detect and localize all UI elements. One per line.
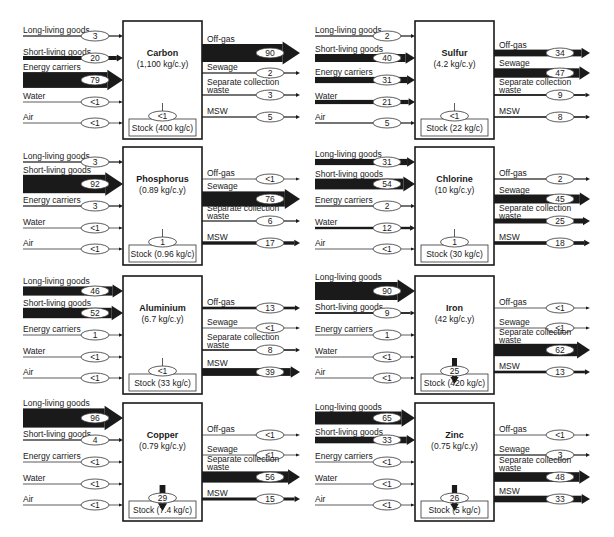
panel-iron: Iron(42 kg/c.y)Stock (420 kg/c)25Long-li… bbox=[315, 272, 590, 394]
output-value: 25 bbox=[555, 216, 565, 226]
input-label: Short-living goods bbox=[315, 44, 383, 54]
output-label-line2: waste bbox=[206, 211, 229, 221]
input-value: 3 bbox=[93, 201, 98, 211]
output-label: Sewage bbox=[499, 317, 530, 327]
output-value: 33 bbox=[555, 494, 565, 504]
input-value: 1 bbox=[93, 330, 98, 340]
output-value: <1 bbox=[555, 303, 565, 313]
input-value: 1 bbox=[385, 330, 390, 340]
panel-phosphorus: Phosphorus(0.89 kg/c.y)Stock (0.96 kg/c)… bbox=[23, 147, 300, 265]
input-value: 3 bbox=[93, 157, 98, 167]
input-label: Energy carriers bbox=[315, 324, 373, 334]
input-label: Water bbox=[315, 473, 338, 483]
output-value: 39 bbox=[265, 367, 275, 377]
output-label: Separate collectionwaste bbox=[498, 327, 572, 345]
input-value: <1 bbox=[90, 500, 100, 510]
element-name: Carbon bbox=[147, 48, 179, 58]
output-label-line2: waste bbox=[206, 340, 229, 350]
input-label: Air bbox=[23, 112, 34, 122]
output-label-line2: waste bbox=[206, 85, 229, 95]
element-throughput: (0.79 kg/c.y) bbox=[139, 441, 186, 451]
stock-flow-value: <1 bbox=[158, 111, 168, 121]
element-throughput: (4.2 kg/c.y) bbox=[433, 59, 475, 69]
output-label: MSW bbox=[499, 486, 520, 496]
output-label: Off-gas bbox=[207, 424, 235, 434]
input-label: Long-living goods bbox=[315, 149, 382, 159]
input-value: <1 bbox=[382, 373, 392, 383]
stock-label: Stock (33 kg/c) bbox=[134, 378, 191, 388]
input-value: <1 bbox=[382, 352, 392, 362]
input-value: <1 bbox=[90, 373, 100, 383]
substance-flow-diagram: Carbon(1,100 kg/c.y)Stock (400 kg/c)<1Lo… bbox=[0, 0, 614, 537]
input-value: 90 bbox=[382, 286, 392, 296]
output-label: Off-gas bbox=[207, 297, 235, 307]
output-label-line2: waste bbox=[206, 462, 229, 472]
input-label: Long-living goods bbox=[315, 272, 382, 282]
input-value: 31 bbox=[382, 157, 392, 167]
output-arrow-head bbox=[294, 240, 300, 246]
element-name: Iron bbox=[446, 303, 463, 313]
input-arrow-head bbox=[407, 157, 415, 167]
panel-carbon: Carbon(1,100 kg/c.y)Stock (400 kg/c)<1Lo… bbox=[23, 21, 300, 139]
input-value: <1 bbox=[90, 118, 100, 128]
output-arrow-head bbox=[291, 366, 300, 377]
input-label: Air bbox=[315, 112, 326, 122]
panel-copper: Copper(0.79 kg/c.y)Stock (7.4 kg/c)29Lon… bbox=[23, 398, 300, 521]
input-label: Air bbox=[315, 367, 326, 377]
input-value: <1 bbox=[382, 244, 392, 254]
input-label: Short-living goods bbox=[315, 169, 383, 179]
input-value: <1 bbox=[382, 479, 392, 489]
input-arrow-head bbox=[113, 284, 123, 297]
output-arrow-head bbox=[296, 348, 300, 352]
input-arrow-head bbox=[409, 98, 415, 105]
input-label: Air bbox=[315, 494, 326, 504]
output-value: 56 bbox=[265, 472, 275, 482]
element-name: Sulfur bbox=[442, 48, 468, 58]
input-arrow-head bbox=[112, 306, 123, 320]
input-arrow-head bbox=[402, 409, 415, 426]
input-arrow-head bbox=[403, 177, 415, 192]
element-throughput: (10 kg/c.y) bbox=[435, 185, 475, 195]
input-value: <1 bbox=[90, 457, 100, 467]
input-label: Air bbox=[23, 494, 34, 504]
output-label: Sewage bbox=[207, 317, 238, 327]
input-value: <1 bbox=[90, 244, 100, 254]
output-value: 8 bbox=[268, 345, 273, 355]
element-throughput: (0.75 kg/c.y) bbox=[431, 441, 478, 451]
stock-flow-value: 1 bbox=[452, 237, 457, 247]
input-label: Energy carriers bbox=[23, 62, 81, 72]
output-arrow-head bbox=[579, 66, 590, 79]
output-arrow-head bbox=[586, 433, 590, 436]
output-label-line2: waste bbox=[498, 463, 521, 473]
output-arrow-head bbox=[579, 470, 590, 484]
panel-zinc: Zinc(0.75 kg/c.y)Stock (5 kg/c)26Long-li… bbox=[315, 402, 590, 522]
input-value: 5 bbox=[385, 118, 390, 128]
input-value: 52 bbox=[90, 308, 100, 318]
input-label: Energy carriers bbox=[23, 195, 81, 205]
element-name: Copper bbox=[147, 430, 179, 440]
stock-flow-value: <1 bbox=[450, 111, 460, 121]
input-value: 4 bbox=[93, 435, 98, 445]
input-value: 33 bbox=[382, 435, 392, 445]
input-arrow-head bbox=[407, 435, 415, 445]
output-label: Off-gas bbox=[207, 34, 235, 44]
output-label: Off-gas bbox=[207, 168, 235, 178]
output-label-line2: waste bbox=[498, 85, 521, 95]
output-value: <1 bbox=[265, 430, 275, 440]
output-arrow-head bbox=[296, 93, 300, 97]
input-value: 31 bbox=[382, 75, 392, 85]
output-label: MSW bbox=[207, 488, 228, 498]
output-label: MSW bbox=[207, 106, 228, 116]
output-label: Sewage bbox=[499, 58, 530, 68]
input-label: Water bbox=[23, 473, 46, 483]
input-label: Air bbox=[23, 367, 34, 377]
output-value: 18 bbox=[555, 238, 565, 248]
output-label: Off-gas bbox=[499, 40, 527, 50]
input-value: 65 bbox=[382, 413, 392, 423]
input-arrow-head bbox=[407, 75, 415, 85]
element-throughput: (0.89 kg/c.y) bbox=[139, 185, 186, 195]
output-value: 62 bbox=[555, 345, 565, 355]
input-value: 9 bbox=[385, 308, 390, 318]
input-label: Water bbox=[315, 346, 338, 356]
output-value: 15 bbox=[265, 494, 275, 504]
